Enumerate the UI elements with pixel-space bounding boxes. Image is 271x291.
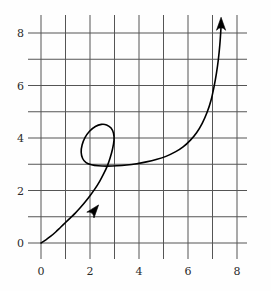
- y-tick-label: 8: [17, 28, 24, 39]
- y-tick-label: 4: [17, 133, 24, 144]
- x-tick-label: 2: [87, 266, 94, 277]
- y-tick-label: 6: [17, 80, 24, 91]
- y-tick-label: 0: [17, 238, 24, 249]
- x-tick-label: 6: [185, 266, 192, 277]
- x-tick-label: 0: [38, 266, 45, 277]
- grid-lines: [28, 15, 247, 259]
- y-tick-label: 2: [17, 185, 24, 196]
- parametric-curve-figure: 02468 02468: [0, 0, 271, 291]
- curve-group: [41, 21, 221, 243]
- mid-curve-arrow: [87, 202, 102, 218]
- x-tick-label: 8: [234, 266, 241, 277]
- parametric-curve: [41, 21, 221, 243]
- x-tick-label: 4: [136, 266, 143, 277]
- plot-area: [0, 0, 271, 291]
